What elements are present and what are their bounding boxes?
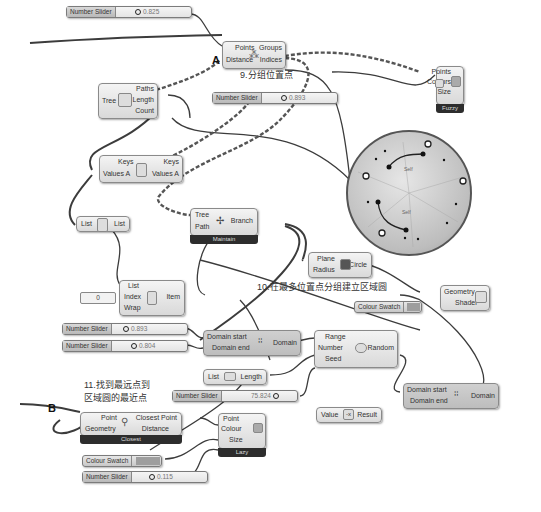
output-values-a[interactable]: Values A [152, 170, 179, 177]
input-value[interactable]: Value [321, 411, 338, 418]
tree-branch-node[interactable]: Tree Path Branch ✢ Maintain [190, 208, 258, 236]
list-length-node[interactable]: List Length [203, 369, 267, 385]
output-domain[interactable]: Domain [471, 392, 495, 399]
checkbox-icon[interactable] [435, 79, 444, 88]
tree-statistics-node[interactable]: Tree Paths Length Count [98, 83, 158, 119]
input-size[interactable]: Size [437, 88, 451, 95]
input-range[interactable]: Range [325, 333, 346, 340]
output-random[interactable]: Random [368, 344, 394, 351]
input-point[interactable]: Point [223, 415, 239, 422]
input-domain-end[interactable]: Domain end [212, 344, 250, 351]
dice-icon [355, 343, 367, 353]
reverse-list-node[interactable]: List List [76, 216, 130, 232]
output-distance[interactable]: Distance [142, 425, 169, 432]
circle-node[interactable]: Plane Radius Circle [308, 252, 372, 278]
output-length[interactable]: Length [133, 96, 154, 103]
colour-swatch-1[interactable]: Colour Swatch [354, 301, 422, 313]
lazy-footer[interactable]: Lazy [218, 448, 266, 457]
output-paths[interactable]: Paths [136, 85, 154, 92]
grasshopper-canvas[interactable]: Number Slider 0.825 Number Slider 0.893 … [0, 0, 541, 512]
slider-name: Number Slider [213, 93, 262, 103]
output-groups[interactable]: Groups [259, 44, 282, 51]
number-slider-6[interactable]: Number Slider 0.115 [82, 471, 208, 483]
input-list[interactable]: List [208, 373, 219, 380]
point-display-node-1[interactable]: Points Colours Size Fuzzy [436, 66, 464, 105]
output-branch[interactable]: Branch [231, 217, 253, 224]
slider-name: Number Slider [83, 472, 132, 482]
slider-knob-icon[interactable] [135, 9, 141, 15]
input-radius[interactable]: Radius [313, 266, 335, 273]
closest-point-node[interactable]: Point Geometry Closest Point Distance ⚲ … [80, 412, 182, 436]
output-list[interactable]: List [114, 220, 125, 227]
input-size[interactable]: Size [229, 436, 243, 443]
slider-value[interactable]: 75.824 [251, 391, 281, 401]
swatch-color[interactable] [136, 457, 160, 465]
input-list[interactable]: List [81, 220, 92, 227]
construct-domain-node-1[interactable]: Domain start Domain end Domain ⁞⁞ [203, 330, 301, 356]
input-values-a[interactable]: Values A [103, 170, 130, 177]
preview-icon [475, 291, 487, 303]
negative-node[interactable]: Value Result -x [316, 407, 382, 423]
input-domain-start[interactable]: Domain start [407, 386, 447, 393]
output-indices[interactable]: Indices [260, 56, 282, 63]
output-closest-point[interactable]: Closest Point [136, 414, 177, 421]
list-item-node[interactable]: List Index Wrap Item [119, 280, 185, 316]
reverse-list-icon [97, 218, 108, 232]
input-path[interactable]: Path [195, 223, 209, 230]
input-wrap[interactable]: Wrap [124, 304, 141, 311]
maintain-footer[interactable]: Maintain [190, 235, 258, 244]
number-slider-5[interactable]: Number Slider 75.824 [172, 390, 298, 402]
sort-list-node[interactable]: Keys Values A Keys Values A [99, 155, 183, 183]
slider-value[interactable]: 0.825 [135, 7, 159, 17]
slider-value[interactable]: 0.804 [131, 341, 155, 351]
input-colour[interactable]: Colour [221, 425, 242, 432]
construct-domain-node-2[interactable]: Domain start Domain end Domain ⁞⁞ [403, 383, 499, 409]
slider-name: Number Slider [67, 7, 116, 17]
point-display-node-2[interactable]: Point Colour Size Lazy [218, 413, 266, 449]
index-panel[interactable]: 0 [80, 292, 116, 304]
output-circle[interactable]: Circle [349, 261, 367, 268]
group-points-node[interactable]: Points Distance Groups Indices ⁂ [222, 41, 286, 69]
input-keys[interactable]: Keys [118, 158, 134, 165]
slider-knob-icon[interactable] [131, 343, 137, 349]
output-result[interactable]: Result [357, 411, 377, 418]
custom-preview-node[interactable]: Geometry Shader [440, 285, 490, 311]
label-b: B [48, 402, 56, 414]
input-domain-start[interactable]: Domain start [207, 333, 247, 340]
rhino-viewport-preview[interactable]: Self Self [346, 130, 472, 256]
input-tree[interactable]: Tree [102, 97, 116, 104]
output-length[interactable]: Length [241, 373, 262, 380]
input-index[interactable]: Index [124, 293, 141, 300]
input-point[interactable]: Point [101, 414, 117, 421]
input-plane[interactable]: Plane [317, 255, 335, 262]
slider-knob-icon[interactable] [149, 474, 155, 480]
number-slider-1[interactable]: Number Slider 0.825 [66, 6, 192, 18]
random-node[interactable]: Range Number Seed Random [314, 330, 398, 368]
slider-value[interactable]: 0.893 [123, 324, 147, 334]
output-item[interactable]: Item [166, 293, 180, 300]
slider-value[interactable]: 0.115 [149, 472, 173, 482]
output-keys[interactable]: Keys [163, 158, 179, 165]
output-domain[interactable]: Domain [273, 339, 297, 346]
colour-swatch-2[interactable]: Colour Swatch [82, 455, 162, 467]
input-tree[interactable]: Tree [195, 211, 209, 218]
input-number[interactable]: Number [318, 344, 343, 351]
input-geometry[interactable]: Geometry [444, 288, 475, 295]
annotation-10: 10.在最多位置点分组建立区域圆 [257, 280, 387, 293]
input-points[interactable]: Points [432, 68, 451, 75]
slider-value[interactable]: 0.893 [281, 93, 305, 103]
input-list[interactable]: List [128, 282, 139, 289]
slider-knob-icon[interactable] [273, 393, 279, 399]
number-slider-2[interactable]: Number Slider 0.893 [212, 92, 338, 104]
swatch-color[interactable] [407, 303, 420, 311]
number-slider-3[interactable]: Number Slider 0.893 [62, 323, 188, 335]
input-geometry[interactable]: Geometry [85, 425, 116, 432]
output-count[interactable]: Count [135, 107, 154, 114]
input-seed[interactable]: Seed [325, 355, 341, 362]
input-domain-end[interactable]: Domain end [410, 397, 448, 404]
fuzzy-footer[interactable]: Fuzzy [436, 104, 464, 113]
slider-knob-icon[interactable] [123, 326, 129, 332]
closest-footer[interactable]: Closest [80, 435, 182, 444]
slider-knob-icon[interactable] [281, 95, 287, 101]
number-slider-4[interactable]: Number Slider 0.804 [62, 340, 188, 352]
